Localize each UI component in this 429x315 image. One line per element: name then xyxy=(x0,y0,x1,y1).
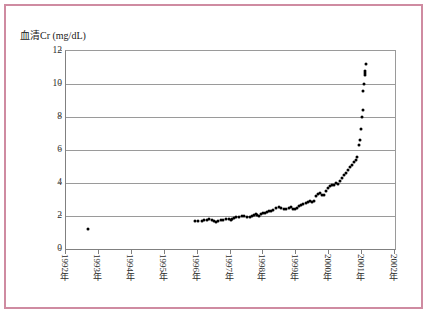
data-point xyxy=(356,155,359,158)
data-point xyxy=(324,190,327,193)
x-tick-mark xyxy=(328,250,329,254)
y-tick-mark xyxy=(58,248,62,249)
x-tick-label: 1997年 xyxy=(223,254,236,281)
gridline xyxy=(66,84,395,85)
data-point xyxy=(361,116,364,119)
data-point xyxy=(346,168,349,171)
y-tick-mark xyxy=(58,149,62,150)
x-tick-mark xyxy=(230,250,231,254)
x-tick-mark xyxy=(197,250,198,254)
x-tick-mark xyxy=(98,250,99,254)
gridline xyxy=(66,117,395,118)
data-point xyxy=(364,70,367,73)
x-tick-label: 1993年 xyxy=(91,254,104,281)
y-axis: 024681012 xyxy=(36,50,62,250)
data-point xyxy=(340,177,343,180)
data-point xyxy=(338,180,341,183)
gridline xyxy=(66,183,395,184)
y-tick-mark xyxy=(58,50,62,51)
x-tick-label: 2000年 xyxy=(322,254,335,281)
data-point xyxy=(344,172,347,175)
x-tick-mark xyxy=(361,250,362,254)
x-tick-label: 2002年 xyxy=(388,254,401,281)
x-tick-label: 1996年 xyxy=(190,254,203,281)
data-point xyxy=(359,139,362,142)
data-point xyxy=(363,83,366,86)
data-point xyxy=(361,109,364,112)
data-point xyxy=(360,127,363,130)
figure-border: 血清Cr (mg/dL) 024681012 1992年1993年1994年19… xyxy=(4,4,423,309)
y-tick-mark xyxy=(58,182,62,183)
plot-area xyxy=(65,50,396,250)
data-point xyxy=(362,89,365,92)
x-tick-mark xyxy=(65,250,66,254)
data-point xyxy=(364,63,367,66)
x-tick-label: 1994年 xyxy=(124,254,137,281)
data-point xyxy=(313,199,316,202)
y-tick-mark xyxy=(58,83,62,84)
chart-title: 血清Cr (mg/dL) xyxy=(20,27,86,42)
x-tick-label: 1998年 xyxy=(256,254,269,281)
x-tick-mark xyxy=(394,250,395,254)
x-axis: 1992年1993年1994年1995年1996年1997年1998年1999年… xyxy=(65,254,396,309)
y-tick-mark xyxy=(58,215,62,216)
y-tick-mark xyxy=(58,116,62,117)
x-tick-label: 1992年 xyxy=(59,254,72,281)
gridline xyxy=(66,150,395,151)
x-tick-mark xyxy=(164,250,165,254)
data-point xyxy=(354,158,357,161)
data-point xyxy=(350,163,353,166)
x-tick-label: 1995年 xyxy=(157,254,170,281)
x-tick-mark xyxy=(131,250,132,254)
data-point xyxy=(357,144,360,147)
x-tick-label: 2001年 xyxy=(355,254,368,281)
chart-container: 血清Cr (mg/dL) 024681012 1992年1993年1994年19… xyxy=(6,6,421,307)
data-point xyxy=(322,194,325,197)
x-tick-mark xyxy=(262,250,263,254)
x-tick-mark xyxy=(295,250,296,254)
x-tick-label: 1999年 xyxy=(289,254,302,281)
data-point xyxy=(87,228,90,231)
